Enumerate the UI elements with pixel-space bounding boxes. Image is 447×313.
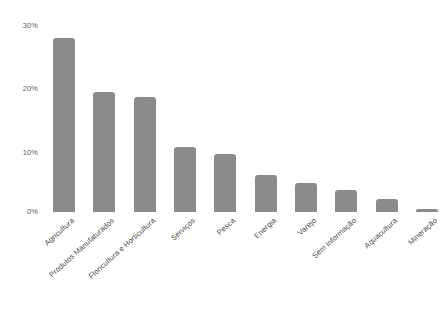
bar-slot <box>295 20 317 212</box>
bar-slot <box>214 20 236 212</box>
bar-chart: 30% 20% 10% 0% AgriculturaProdutos Manuf… <box>0 0 447 313</box>
bar-slot <box>255 20 277 212</box>
x-axis-label-text: Aquacultura <box>362 216 399 250</box>
y-axis: 30% 20% 10% 0% <box>0 0 44 313</box>
bar[interactable] <box>255 175 277 212</box>
bar-slot <box>335 20 357 212</box>
bar[interactable] <box>335 190 357 212</box>
x-axis-label-text: Energia <box>252 216 278 240</box>
x-axis-label-text: Varejo <box>296 216 318 237</box>
y-tick-label-20: 20% <box>23 84 38 93</box>
x-axis-labels: AgriculturaProdutos ManufaturadosFloricu… <box>44 212 447 313</box>
bar[interactable] <box>53 38 75 212</box>
x-axis-label-text: Pesca <box>215 216 237 237</box>
x-axis-label-text: Floricultura e Horticultura <box>86 216 156 281</box>
bar-slot <box>416 20 438 212</box>
y-tick-label-10: 10% <box>23 148 38 157</box>
bar[interactable] <box>295 183 317 212</box>
y-tick-label-0: 0% <box>27 207 38 216</box>
x-axis-label-text: Agricultura <box>43 216 76 247</box>
bar-slot <box>93 20 115 212</box>
y-tick-label-30: 30% <box>23 21 38 30</box>
x-axis-label-text: Mineração <box>406 216 439 247</box>
bar-slot <box>53 20 75 212</box>
x-axis-label-text: Serviços <box>169 216 197 242</box>
